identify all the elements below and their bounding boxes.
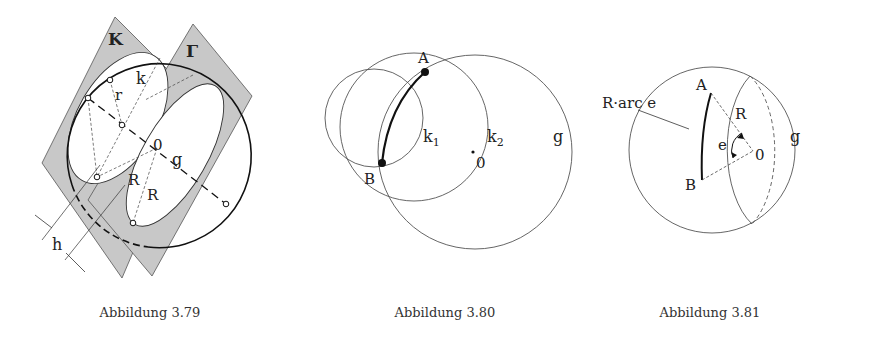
arc-ab (382, 72, 425, 163)
point (85, 95, 91, 101)
circle-k1 (325, 69, 423, 167)
label-radius-R1: R (128, 171, 140, 189)
label-axis-g: g (172, 150, 182, 169)
circle-k2 (340, 53, 488, 201)
label-k1: k1 (423, 127, 440, 149)
dimension-arrow (35, 215, 52, 228)
label-distance-h: h (52, 235, 62, 254)
point (107, 77, 113, 83)
point (94, 174, 100, 180)
sphere-planes-diagram: K Γ k r 0 g R R h (0, 0, 300, 300)
caption-3-79: Abbildung 3.79 (50, 305, 250, 320)
label-circle-k: k (136, 69, 146, 88)
label-a: A (417, 49, 429, 67)
arc-ab (702, 93, 711, 180)
point-a (421, 68, 429, 76)
caption-3-80: Abbildung 3.80 (345, 305, 545, 320)
point (119, 122, 125, 128)
label-plane-k: K (108, 29, 124, 49)
great-circle-front (727, 76, 752, 224)
caption-3-81: Abbildung 3.81 (610, 305, 810, 320)
point (223, 201, 229, 207)
label-radius: R (735, 105, 747, 123)
circles-diagram: A B k1 k2 0 g (300, 0, 590, 300)
figure-3-81: R·arc e A B R e 0 g Abbildung 3.81 (590, 0, 879, 340)
dimension-arrow (66, 253, 85, 272)
label-g: g (553, 127, 563, 146)
label-center: 0 (476, 154, 486, 172)
label-center: 0 (755, 146, 765, 164)
label-g: g (790, 127, 800, 146)
center-point (471, 150, 474, 153)
label-b: B (364, 170, 375, 188)
label-b: B (685, 176, 696, 194)
label-arc-length: R·arc e (602, 94, 656, 112)
sphere-outline (629, 67, 795, 233)
sphere-arc-diagram: R·arc e A B R e 0 g (590, 0, 879, 300)
label-radius-R2: R (147, 186, 159, 204)
label-a: A (695, 76, 707, 94)
label-k2: k2 (487, 127, 504, 149)
point (130, 220, 136, 226)
figure-3-79: K Γ k r 0 g R R h Abbildung 3.79 (0, 0, 300, 340)
point-b (378, 159, 386, 167)
figure-3-80: A B k1 k2 0 g Abbildung 3.80 (300, 0, 590, 340)
label-radius-r: r (115, 86, 123, 104)
label-center: 0 (153, 136, 163, 154)
great-circle-g (378, 55, 572, 249)
label-angle-e: e (718, 136, 727, 154)
label-plane-gamma: Γ (186, 41, 198, 61)
leader-line (638, 110, 689, 129)
